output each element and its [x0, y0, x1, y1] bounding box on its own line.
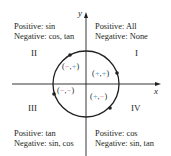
quadrant-III-negative: Negative: sin, cos: [14, 139, 74, 149]
quadrant-I-positive: Positive: All: [95, 22, 148, 32]
point-quadrant-IV: [108, 106, 112, 110]
quadrant-I-rules: Positive: All Negative: None: [95, 22, 148, 42]
quadrant-IV-positive: Positive: cos: [95, 129, 154, 139]
point-quadrant-I: [115, 71, 119, 75]
quadrant-III-positive: Positive: tan: [14, 129, 74, 139]
quadrant-I-signs: (+,+): [92, 69, 109, 78]
quadrant-III-numeral: III: [28, 103, 37, 113]
quadrant-II-negative: Negative: cos, tan: [14, 32, 74, 42]
quadrant-III-rules: Positive: tan Negative: sin, cos: [14, 129, 74, 149]
quadrant-I-numeral: I: [135, 48, 138, 58]
x-axis-label: x: [154, 86, 158, 96]
quadrant-II-numeral: II: [31, 48, 37, 58]
quadrant-II-positive: Positive: sin: [14, 22, 74, 32]
point-quadrant-III: [52, 92, 56, 96]
quadrant-IV-signs: (+,−): [90, 92, 107, 101]
y-axis-arrow-icon: [84, 12, 88, 18]
quadrant-IV-numeral: IV: [131, 103, 141, 113]
point-quadrant-II: [68, 53, 72, 57]
y-axis-label: y: [78, 8, 82, 18]
quadrant-II-signs: (−,+): [62, 62, 79, 71]
quadrant-IV-rules: Positive: cos Negative: sin, tan: [95, 129, 154, 149]
quadrant-IV-negative: Negative: sin, tan: [95, 139, 154, 149]
quadrant-III-signs: (−,−): [57, 86, 74, 95]
quadrant-I-negative: Negative: None: [95, 32, 148, 42]
quadrant-II-rules: Positive: sin Negative: cos, tan: [14, 22, 74, 42]
